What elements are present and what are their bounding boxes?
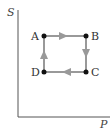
- label-b: B: [91, 30, 99, 43]
- arrow-left-icon: [62, 68, 71, 76]
- arrow-up-icon: [40, 50, 48, 59]
- cycle-diagram: S P A B C D: [0, 0, 110, 130]
- point-c: [84, 70, 89, 75]
- y-axis-label: S: [7, 6, 15, 19]
- label-a: A: [30, 30, 40, 43]
- point-b: [84, 34, 89, 39]
- arrow-down-icon: [82, 49, 90, 58]
- arrow-right-icon: [59, 32, 68, 40]
- x-axis-label: P: [99, 118, 108, 130]
- label-d: D: [31, 66, 40, 79]
- point-a: [42, 34, 47, 39]
- label-c: C: [91, 66, 99, 79]
- point-d: [42, 70, 47, 75]
